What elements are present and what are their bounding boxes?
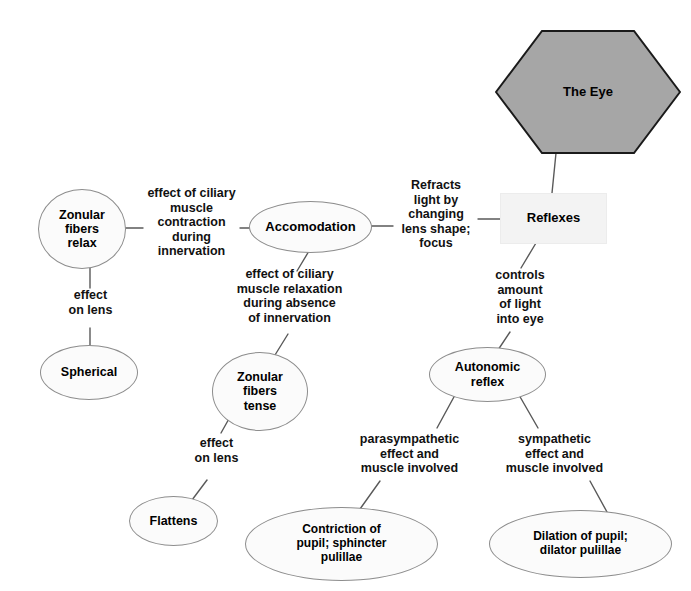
edge-label-effect-ciliary-contraction: effect of ciliary muscle contraction dur… xyxy=(136,186,247,259)
node-zonular-fibers-relax-label: Zonular fibers relax xyxy=(59,208,105,251)
node-the-eye-label: The Eye xyxy=(563,85,613,100)
edge-label-effect-on-lens-mid: effect on lens xyxy=(177,436,256,465)
node-contriction-of-pupil[interactable]: Contriction of pupil; sphincter pulillae xyxy=(245,507,438,581)
edge-effect-label-to-flattens xyxy=(192,480,207,500)
node-zonular-fibers-relax[interactable]: Zonular fibers relax xyxy=(38,189,126,269)
edge-relaxation-label-to-zonular-tense xyxy=(275,334,288,355)
edge-parasympathetic-label-to-contriction xyxy=(360,481,380,509)
edge-sympathetic-label-to-dilation xyxy=(590,481,607,512)
node-autonomic-reflex-label: Autonomic reflex xyxy=(455,360,520,389)
node-dilation-of-pupil-label: Dilation of pupil; dilator pulillae xyxy=(533,530,628,557)
node-reflexes[interactable]: Reflexes xyxy=(500,193,607,244)
node-contriction-of-pupil-label: Contriction of pupil; sphincter pulillae xyxy=(297,523,387,564)
edge-label-sympathetic: sympathetic effect and muscle involved xyxy=(491,432,618,476)
edge-label-parasympathetic: parasympathetic effect and muscle involv… xyxy=(346,432,473,476)
edge-label-effect-ciliary-relaxation: effect of ciliary muscle relaxation duri… xyxy=(219,267,360,325)
node-the-eye[interactable]: The Eye xyxy=(495,30,681,154)
edge-label-effect-on-lens-left: effect on lens xyxy=(51,288,130,317)
node-accomodation[interactable]: Accomodation xyxy=(249,201,372,253)
edge-autonomic-to-sympathetic-label xyxy=(519,395,538,428)
node-spherical-label: Spherical xyxy=(61,365,117,379)
edge-eye-to-reflexes xyxy=(552,153,556,193)
node-reflexes-label: Reflexes xyxy=(527,211,580,226)
node-flattens-label: Flattens xyxy=(150,514,198,528)
edge-label-controls-amount-of-light: controls amount of light into eye xyxy=(480,268,560,326)
node-zonular-fibers-tense[interactable]: Zonular fibers tense xyxy=(212,352,308,431)
node-spherical[interactable]: Spherical xyxy=(40,345,138,400)
node-zonular-fibers-tense-label: Zonular fibers tense xyxy=(237,370,283,413)
concept-map-canvas: The Eye Reflexes Accomodation Zonular fi… xyxy=(0,0,691,591)
edge-label-refracts-light: Refracts light by changing lens shape; f… xyxy=(392,178,480,251)
node-dilation-of-pupil[interactable]: Dilation of pupil; dilator pulillae xyxy=(489,510,672,578)
node-flattens[interactable]: Flattens xyxy=(129,496,218,546)
node-accomodation-label: Accomodation xyxy=(265,220,355,235)
node-autonomic-reflex[interactable]: Autonomic reflex xyxy=(429,347,546,402)
edge-autonomic-to-parasympathetic-label xyxy=(437,395,455,428)
edge-reflexes-to-controls-label xyxy=(521,243,536,268)
